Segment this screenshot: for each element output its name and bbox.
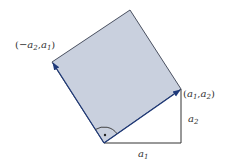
right-angle-dot <box>104 134 106 136</box>
label-neg-a2-a1: (−a2,a1) <box>15 39 55 52</box>
label-leg-a1: a1 <box>138 148 148 161</box>
diagram-canvas: (−a2,a1) (a1,a2) a2 a1 <box>0 0 227 166</box>
rotated-square <box>52 10 181 143</box>
label-a1-a2: (a1,a2) <box>183 88 215 101</box>
label-leg-a2: a2 <box>188 113 199 126</box>
